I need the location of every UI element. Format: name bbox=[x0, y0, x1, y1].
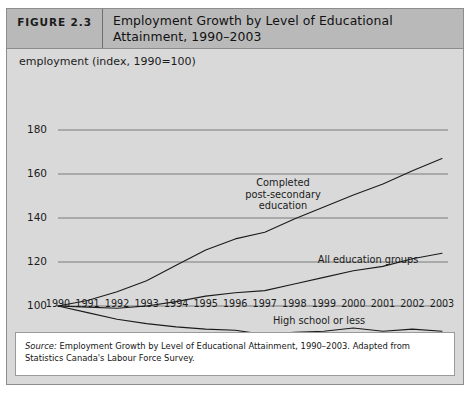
figure-title: Employment Growth by Level of Educationa… bbox=[103, 9, 463, 48]
series-annotation: High school or less bbox=[259, 315, 379, 327]
series-annotation: All education groups bbox=[307, 254, 429, 266]
figure-header: FIGURE 2.3 Employment Growth by Level of… bbox=[7, 9, 463, 49]
plot-panel: employment (index, 1990=100) 80100120140… bbox=[7, 49, 463, 341]
source-box: Source: Employment Growth by Level of Ed… bbox=[15, 332, 455, 376]
line-chart: 8010012014016018019901991199219931994199… bbox=[7, 49, 463, 341]
source-body: Employment Growth by Level of Educationa… bbox=[25, 341, 410, 363]
y-tick-label: 160 bbox=[21, 167, 47, 179]
y-tick-label: 120 bbox=[21, 255, 47, 267]
figure-number: FIGURE 2.3 bbox=[7, 9, 103, 48]
figure-root: FIGURE 2.3 Employment Growth by Level of… bbox=[0, 0, 472, 393]
y-tick-label: 180 bbox=[21, 123, 47, 135]
source-text: Source: Employment Growth by Level of Ed… bbox=[25, 341, 445, 364]
series-annotation: Completed post-secondary education bbox=[225, 177, 341, 212]
x-tick-label: 2003 bbox=[425, 298, 459, 309]
source-label: Source: bbox=[25, 341, 57, 351]
figure-frame: FIGURE 2.3 Employment Growth by Level of… bbox=[6, 8, 464, 385]
y-tick-label: 140 bbox=[21, 211, 47, 223]
